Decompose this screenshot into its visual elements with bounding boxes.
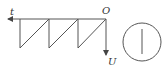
- sawtooth-diagram: t O U: [0, 0, 165, 72]
- origin-label: O: [102, 5, 110, 16]
- tooth-2-ramp: [49, 19, 78, 48]
- diagram-canvas: t O U: [0, 0, 165, 72]
- tooth-1-ramp: [20, 19, 49, 48]
- time-axis-label: t: [10, 6, 15, 17]
- sawtooth-waveform: [20, 19, 106, 48]
- tooth-3-ramp: [78, 19, 106, 48]
- circle-line-icon: [123, 23, 161, 61]
- voltage-axis-label: U: [108, 56, 117, 67]
